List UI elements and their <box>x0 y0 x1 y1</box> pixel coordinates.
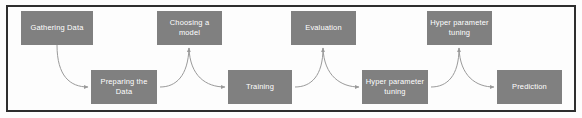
flowchart-canvas: Gathering DataPreparing the DataChoosing… <box>0 0 582 118</box>
node-hyper-parameter-tuning-1[interactable]: Hyper parameter tuning <box>362 70 428 104</box>
node-choosing-a-model[interactable]: Choosing a model <box>157 11 222 45</box>
node-hyper-parameter-tuning-2[interactable]: Hyper parameter tuning <box>427 11 492 45</box>
node-training[interactable]: Training <box>228 70 292 104</box>
node-gathering-data[interactable]: Gathering Data <box>21 11 93 45</box>
node-prediction[interactable]: Prediction <box>497 70 562 104</box>
node-evaluation[interactable]: Evaluation <box>291 11 356 45</box>
node-preparing-the-data[interactable]: Preparing the Data <box>91 70 157 104</box>
